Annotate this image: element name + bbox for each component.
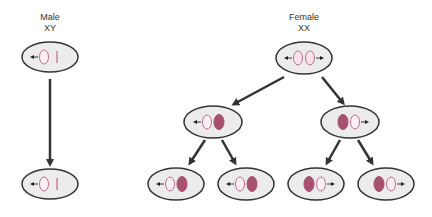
cell-female-mid-left: [184, 106, 242, 138]
cell-female-mid-right: [321, 106, 379, 138]
x-chromosome-active: [40, 177, 49, 191]
x-chromosome-active: [317, 177, 326, 191]
arrow-to-mid-right-line: [322, 77, 343, 103]
x-chromosome-active: [236, 177, 245, 191]
x-chromosome-active: [387, 177, 396, 191]
x-chromosome-active: [306, 51, 315, 65]
cell-female-parent: [276, 42, 332, 74]
cell-female-bottom-1: [148, 168, 204, 200]
x-chromosome-active: [203, 115, 212, 129]
cell-male-parent: [22, 42, 78, 72]
arrow-to-bottom-2: [222, 140, 235, 163]
x-chromosome-active: [294, 51, 303, 65]
x-chromosome-active: [166, 177, 175, 191]
x-chromosome-inactive: [304, 177, 314, 192]
arrow-to-mid-left: [234, 77, 284, 104]
x-chromosome-active: [40, 50, 49, 64]
x-chromosome-inactive: [177, 177, 187, 192]
arrow-to-bottom-4: [358, 140, 372, 163]
cell-male-child: [22, 169, 78, 199]
cell-female-bottom-2: [218, 168, 274, 200]
arrow-to-bottom-3: [327, 140, 340, 163]
x-chromosome-inactive: [247, 177, 257, 192]
arrow-to-bottom-1: [190, 140, 205, 163]
cell-female-bottom-4: [358, 168, 414, 200]
x-chromosome-inactive: [214, 115, 224, 130]
x-chromosome-active: [351, 115, 360, 129]
x-inactivation-diagram: [0, 0, 432, 217]
cell-female-bottom-3: [288, 168, 344, 200]
x-chromosome-inactive: [374, 177, 384, 192]
x-chromosome-inactive: [338, 115, 348, 130]
